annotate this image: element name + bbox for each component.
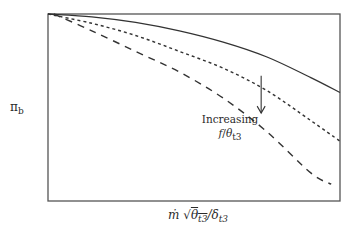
chart (0, 0, 363, 233)
series-line-solid (48, 14, 340, 93)
plot-frame (48, 14, 340, 201)
annotation-line2: f/θt3 (190, 126, 270, 144)
y-axis-label: πb (10, 100, 24, 116)
x-axis-label: ṁ √θt3/δt3 (168, 208, 228, 224)
series-layer (48, 14, 340, 184)
annotation-arrow (257, 76, 265, 113)
annotation-text: Increasing f/θt3 (190, 112, 270, 144)
annotation-line1: Increasing (190, 112, 270, 126)
series-line-dashed (54, 14, 331, 184)
